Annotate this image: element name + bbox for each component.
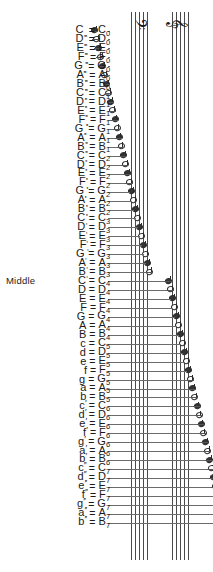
ledger-line [119,156,127,157]
ledger-line [113,129,121,130]
note-stem [141,223,142,229]
note-stem [143,232,144,238]
scientific-name: B7 [98,517,110,527]
leader-line [108,254,144,255]
leader-line [108,272,148,273]
leader-line [108,299,171,300]
leader-line [108,469,209,470]
note-stem [176,303,177,309]
leader-line [108,442,203,443]
leader-line [108,523,213,524]
ledger-line [121,165,129,166]
note-stem [149,259,150,265]
equals-sign: = [89,518,95,527]
note-stem [182,330,183,336]
note-stem [180,321,181,327]
ledger-line [125,183,133,184]
leader-line [108,433,201,434]
leader-line [108,218,136,219]
note-stem [139,214,140,220]
note-stem [178,312,179,318]
ledger-line [203,451,211,452]
note-stem [184,339,185,345]
ledger-line [197,424,205,425]
leader-line [108,281,166,282]
leader-line [108,460,207,461]
bass-clef: 𝄢 [129,18,148,30]
note-stem [135,196,136,202]
leader-line [108,263,146,264]
ledger-line [189,389,197,390]
pitch-label-column: C,,,,=C0D,,,,=D0E,,,,=E0F,,,,=F0G,,,,=G0… [0,26,110,527]
ledger-line [209,478,213,479]
leader-line [108,227,138,228]
leader-line [108,415,197,416]
note-stem [133,187,134,193]
ledger-line [164,281,172,282]
leader-line [108,210,134,211]
leader-line [108,362,185,363]
leader-line [108,326,177,327]
note-stem [186,348,187,354]
note-stem [174,294,175,300]
pitch-row: b′′=B7 [0,518,110,527]
note-stem [145,241,146,247]
note-stem [147,250,148,256]
ledger-line [199,433,207,434]
ledger-line [191,397,199,398]
leader-line [108,353,183,354]
leader-line [108,380,189,381]
ledger-line [146,272,154,273]
ledger-line [193,406,201,407]
ledger-line [187,380,195,381]
leader-line [108,478,212,479]
middle-c-label: Middle [6,276,35,285]
ledger-line [211,487,213,488]
pitch-notation-diagram: 𝄢𝄞 C,,,,=C0D,,,,=D0E,,,,=E0F,,,,=F0G,,,,… [0,0,213,572]
leader-line [108,308,173,309]
note-stem [188,357,189,363]
leader-line [108,236,140,237]
leader-line [108,514,213,515]
ledger-line [195,415,203,416]
leader-line [108,487,213,488]
note-stem [190,366,191,372]
leader-line [108,406,195,407]
leader-line [108,397,193,398]
ledger-line [115,138,123,139]
leader-line [108,201,132,202]
leader-line [108,505,213,506]
leader-line [108,290,168,291]
leader-line [108,335,179,336]
note-stem [137,205,138,211]
leader-line [108,245,142,246]
leader-line [108,424,199,425]
leader-line [108,317,175,318]
treble-clef: 𝄞 [169,18,188,29]
leader-line [108,496,213,497]
ledger-line [207,469,213,470]
leader-line [108,192,130,193]
ledger-line [166,290,174,291]
ledger-line [205,460,213,461]
ledger-line [111,120,119,121]
helmholtz-name: b′′ [78,517,86,527]
leader-line [108,344,181,345]
leader-line [108,371,187,372]
ledger-line [201,442,209,443]
leader-line [108,389,191,390]
ledger-line [117,147,125,148]
ledger-line [123,174,131,175]
leader-line [108,451,205,452]
